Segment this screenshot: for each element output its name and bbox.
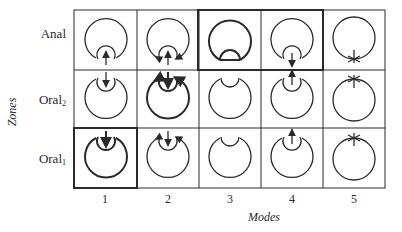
glyph-oral2-mode5: [333, 75, 375, 121]
glyph-oral2-mode4: [271, 73, 313, 118]
glyph-anal-mode2: [147, 19, 189, 65]
col-label-1: 1: [74, 192, 136, 207]
grid-border: [74, 10, 385, 188]
glyph-anal-mode1: [85, 19, 127, 65]
x-axis-label: Modes: [204, 210, 324, 225]
glyph-anal-mode3: [209, 21, 251, 60]
col-label-4: 4: [261, 192, 323, 207]
glyph-anal-mode5: [333, 17, 375, 63]
glyph-oral2-mode1: [85, 72, 127, 118]
col-label-2: 2: [137, 192, 199, 207]
glyph-oral1-mode5: [333, 133, 375, 180]
col-label-3: 3: [199, 192, 261, 207]
col-label-5: 5: [323, 192, 385, 207]
glyph-oral1-mode4: [271, 132, 313, 177]
glyph-oral2-mode3: [209, 78, 251, 118]
glyph-oral1-mode3: [209, 137, 251, 177]
glyph-oral1-mode2: [147, 131, 189, 177]
glyph-oral2-mode2: [147, 72, 189, 118]
glyph-oral1-mode1: [85, 131, 127, 177]
glyph-anal-mode4: [271, 19, 313, 64]
